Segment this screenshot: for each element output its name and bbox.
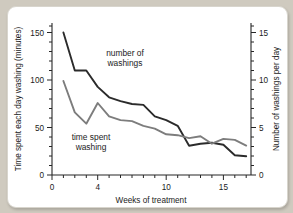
y2-tick-label-0: 0 bbox=[259, 171, 264, 180]
x-axis-title: Weeks of treatment bbox=[116, 196, 188, 205]
x-tick-label-10: 10 bbox=[162, 183, 172, 192]
x-axis-ticks bbox=[52, 175, 246, 180]
annotation-number-of-washings-line1: number of bbox=[106, 48, 144, 58]
y2-axis-title: Number of washings per day bbox=[272, 46, 281, 151]
y-axis-right-ticks bbox=[251, 26, 256, 175]
y2-tick-label-5: 5 bbox=[259, 124, 264, 133]
y2-tick-label-10: 10 bbox=[259, 76, 269, 85]
chart-panel: 0 50 100 150 0 5 10 15 bbox=[7, 6, 288, 208]
y2-tick-label-15: 15 bbox=[259, 29, 269, 38]
y-axis-left-ticks bbox=[47, 26, 52, 175]
annotation-number-of-washings-line2: washings bbox=[107, 58, 143, 68]
x-tick-label-15: 15 bbox=[219, 183, 229, 192]
y-tick-label-150: 150 bbox=[30, 29, 44, 38]
y-tick-label-0: 0 bbox=[39, 171, 44, 180]
x-tick-label-4: 4 bbox=[95, 183, 100, 192]
annotation-time-spent-washing-line2: washing bbox=[75, 142, 107, 152]
annotation-time-spent-washing-line1: time spent bbox=[72, 132, 111, 142]
y-tick-label-100: 100 bbox=[30, 76, 44, 85]
line-chart: 0 50 100 150 0 5 10 15 bbox=[8, 7, 287, 207]
y-axis-title: Time spent each day washing (minutes) bbox=[14, 27, 23, 172]
x-tick-label-0: 0 bbox=[50, 183, 55, 192]
y-tick-label-50: 50 bbox=[35, 124, 45, 133]
